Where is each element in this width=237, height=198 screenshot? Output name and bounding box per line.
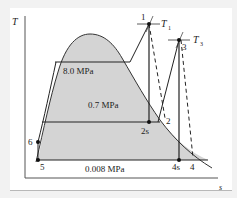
- process-2-3: [158, 40, 179, 122]
- label-6: 6: [28, 137, 33, 147]
- state-point-3: [177, 38, 181, 42]
- pressure-label-07mpa: 0.7 MPa: [88, 100, 119, 110]
- label-2s: 2s: [141, 126, 150, 136]
- label-4s: 4s: [172, 162, 181, 172]
- process-3-4: [181, 40, 193, 158]
- label-t1-sub: 1: [168, 25, 171, 31]
- state-point-6: [36, 140, 40, 144]
- state-point-2s: [147, 120, 151, 124]
- state-point-1: [147, 22, 151, 26]
- ts-diagram: T s 8.0 MPa 0.7 MPa 0.008 MPa 1 T 1 3 T …: [0, 0, 237, 198]
- label-t3-sub: 3: [200, 41, 203, 47]
- s-axis-label: s: [219, 183, 222, 192]
- process-superheat-1: [130, 24, 149, 62]
- pressure-label-0008mpa: 0.008 MPa: [85, 164, 125, 174]
- label-t1: T: [161, 18, 168, 29]
- pressure-label-8mpa: 8.0 MPa: [63, 66, 94, 76]
- label-4: 4: [190, 162, 195, 172]
- two-phase-region: [38, 34, 208, 160]
- label-5: 5: [40, 162, 45, 172]
- t-axis-label: T: [12, 16, 19, 27]
- label-3: 3: [182, 42, 187, 52]
- label-2: 2: [166, 116, 171, 126]
- label-1: 1: [141, 12, 146, 22]
- label-t3: T: [193, 34, 200, 45]
